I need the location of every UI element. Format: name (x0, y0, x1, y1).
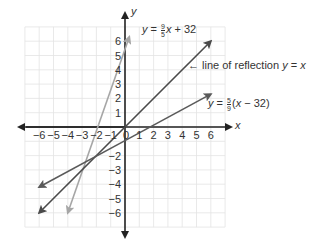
tick-label: 6 (115, 35, 121, 47)
tick-label: 6 (208, 129, 214, 141)
y-axis-label: y (131, 5, 137, 17)
fraction-9-5: 95 (161, 23, 165, 38)
tick-label: −3 (76, 129, 89, 141)
tick-label: −4 (62, 129, 75, 141)
tick-label: −5 (108, 193, 121, 205)
tick-label: 5 (193, 129, 199, 141)
tick-label: 5 (115, 50, 121, 62)
tick-label: −2 (90, 129, 103, 141)
x-axis-label: x (235, 119, 241, 131)
tick-label: −6 (108, 207, 121, 219)
tick-label: −5 (47, 129, 60, 141)
tick-label: 0 (123, 129, 129, 141)
reflection-label: ← line of reflection y = x (188, 59, 306, 71)
tick-label: 1 (115, 107, 121, 119)
tick-label: −1 (104, 129, 117, 141)
tick-label: 2 (151, 129, 157, 141)
tick-label: 3 (165, 129, 171, 141)
tick-label: −4 (108, 178, 121, 190)
tick-label: 3 (115, 78, 121, 90)
pointer-arrow-icon: ← (188, 59, 199, 71)
fraction-5-9: 59 (227, 97, 231, 112)
axes (19, 13, 231, 237)
equation-fahrenheit: y = 95x + 32 (142, 23, 196, 38)
tick-label: −6 (33, 129, 46, 141)
tick-label: 4 (115, 64, 121, 76)
equation-celsius: y = 59(x − 32) (208, 97, 270, 112)
tick-label: 4 (179, 129, 185, 141)
tick-label: −2 (108, 150, 121, 162)
tick-label: 1 (136, 129, 142, 141)
tick-label: −3 (108, 164, 121, 176)
tick-label: 2 (115, 92, 121, 104)
